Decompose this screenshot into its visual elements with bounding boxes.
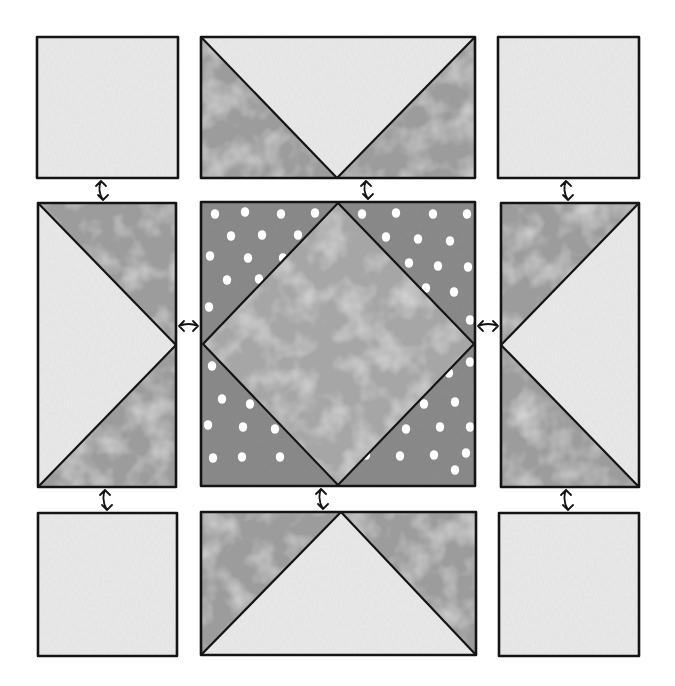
block-top-center-flying-geese — [201, 37, 475, 178]
polka-dot — [276, 452, 284, 462]
polka-dot — [244, 253, 252, 263]
polka-dot — [227, 231, 235, 241]
polka-dot — [402, 424, 410, 434]
polka-dot — [311, 208, 319, 218]
double-arrow-icon — [179, 321, 198, 331]
polka-dot — [382, 232, 390, 242]
polka-dot — [463, 209, 471, 219]
block-top-left-plain-square — [37, 37, 178, 178]
polka-dot — [209, 453, 217, 463]
double-arrow-icon — [316, 489, 328, 509]
polka-dot — [429, 209, 437, 219]
polka-dot — [466, 357, 474, 367]
block-middle-right-flying-geese — [501, 203, 639, 487]
polka-dot — [466, 422, 474, 432]
block-middle-left-flying-geese — [38, 203, 176, 487]
polka-dot — [451, 397, 459, 407]
polka-dot — [392, 208, 400, 218]
polka-dot — [241, 207, 249, 217]
polka-dot — [396, 451, 404, 461]
polka-dot — [271, 424, 279, 434]
block-center-square-in-square — [201, 202, 475, 486]
polka-dot — [414, 234, 422, 244]
double-arrow-icon — [361, 181, 373, 199]
polka-dot — [246, 399, 254, 409]
polka-dot — [420, 399, 428, 409]
polka-dot — [430, 450, 438, 460]
double-arrow-icon — [561, 490, 573, 510]
polka-dot — [258, 230, 266, 240]
double-arrow-icon — [96, 181, 108, 200]
polka-dot — [436, 422, 444, 432]
polka-dot — [208, 361, 216, 371]
polka-dot — [451, 465, 459, 475]
polka-dot — [218, 394, 226, 404]
polka-dot — [238, 452, 246, 462]
polka-dot — [223, 275, 231, 285]
block-bottom-right-plain-square — [499, 513, 639, 656]
polka-dot — [204, 420, 212, 430]
polka-dot — [466, 315, 474, 325]
double-arrow-icon — [561, 181, 573, 200]
block-bottom-center-flying-geese — [201, 512, 476, 655]
quilt-block-diagram — [0, 0, 675, 686]
polka-dot — [434, 261, 442, 271]
polka-dot — [358, 209, 366, 219]
double-arrow-icon — [478, 321, 498, 331]
polka-dot — [464, 262, 472, 272]
polka-dot — [462, 448, 470, 458]
polka-dot — [206, 251, 214, 261]
polka-dot — [446, 236, 454, 246]
polka-dot — [239, 422, 247, 432]
block-bottom-left-plain-square — [38, 513, 177, 656]
block-top-right-plain-square — [498, 37, 639, 178]
polka-dot — [405, 258, 413, 268]
polka-dot — [294, 230, 302, 240]
polka-dot — [277, 209, 285, 219]
polka-dot — [205, 302, 213, 312]
double-arrow-icon — [100, 490, 112, 510]
polka-dot — [211, 209, 219, 219]
polka-dot — [450, 287, 458, 297]
